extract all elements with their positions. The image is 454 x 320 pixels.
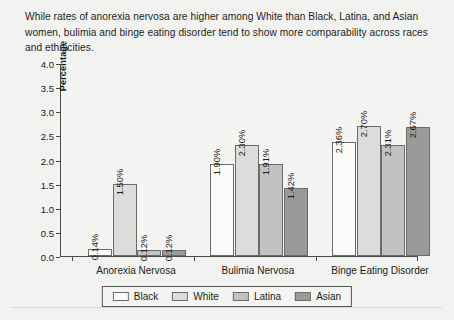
y-axis-tick-label: 4.0: [41, 59, 54, 70]
bar-value-label: 0.12%: [139, 235, 149, 261]
legend-item[interactable]: Black: [113, 291, 158, 302]
bar[interactable]: 0.12%: [162, 250, 186, 256]
bar-value-label: 1.90%: [212, 149, 222, 175]
bar[interactable]: 0.14%: [88, 249, 112, 256]
bar-value-label: 1.42%: [286, 172, 296, 198]
bar[interactable]: 2.67%: [406, 127, 430, 256]
y-axis-tick-label: 3.0: [41, 107, 54, 118]
x-axis-category-label: Binge Eating Disorder: [331, 265, 428, 276]
legend-swatch: [233, 292, 249, 301]
bar-value-label: 1.50%: [115, 168, 125, 194]
y-axis-tick-mark: [56, 161, 60, 162]
bar-group: 2.36%2.70%2.31%2.67%: [332, 63, 436, 256]
legend-label: Latina: [254, 291, 281, 302]
x-axis-tick-mark: [417, 257, 418, 261]
y-axis-tick-mark: [56, 185, 60, 186]
bar-value-label: 2.67%: [408, 112, 418, 138]
y-axis-tick-label: 2.0: [41, 155, 54, 166]
x-axis-tick-mark: [194, 257, 195, 261]
bar[interactable]: 2.36%: [332, 142, 356, 256]
y-axis-tick-mark: [56, 209, 60, 210]
y-axis-tick-mark: [56, 112, 60, 113]
bar[interactable]: 1.91%: [259, 164, 283, 256]
y-axis-tick-mark: [56, 233, 60, 234]
x-axis-tick-mark: [316, 257, 317, 261]
bar-value-label: 2.36%: [334, 127, 344, 153]
legend-label: Black: [134, 291, 158, 302]
figure: While rates of anorexia nervosa are high…: [0, 0, 454, 320]
x-axis-category-label: Bulimia Nervosa: [222, 265, 295, 276]
y-axis-tick-mark: [56, 136, 60, 137]
y-axis-tick-label: 0.5: [41, 227, 54, 238]
bar[interactable]: 2.31%: [381, 145, 405, 256]
bar-value-label: 0.12%: [164, 235, 174, 261]
legend-item[interactable]: Latina: [233, 291, 281, 302]
bar-value-label: 2.31%: [383, 129, 393, 155]
x-axis-line: [60, 256, 418, 257]
legend-label: White: [193, 291, 219, 302]
x-axis-category-label: Anorexia Nervosa: [96, 265, 175, 276]
legend-item[interactable]: White: [172, 291, 219, 302]
bar[interactable]: 2.30%: [235, 145, 259, 256]
legend-label: Asian: [316, 291, 341, 302]
y-axis-line: [60, 64, 61, 257]
bar[interactable]: 1.90%: [210, 164, 234, 256]
chart-plot-area: Percentage 0.00.51.01.52.02.53.03.54.0 0…: [60, 64, 418, 257]
bar[interactable]: 0.12%: [137, 250, 161, 256]
bar-group: 0.14%1.50%0.12%0.12%: [88, 63, 192, 256]
legend-swatch: [172, 292, 188, 301]
y-axis-tick-label: 1.0: [41, 203, 54, 214]
bar-value-label: 2.70%: [359, 111, 369, 137]
chart-legend: BlackWhiteLatinaAsian: [102, 286, 352, 307]
bar[interactable]: 2.70%: [357, 126, 381, 256]
y-axis-tick-mark: [56, 257, 60, 258]
bar-value-label: 2.30%: [237, 130, 247, 156]
bar[interactable]: 1.42%: [284, 188, 308, 257]
bar-value-label: 0.14%: [90, 234, 100, 260]
y-axis-tick-label: 1.5: [41, 179, 54, 190]
figure-caption: While rates of anorexia nervosa are high…: [25, 9, 429, 56]
bar-value-label: 1.91%: [261, 149, 271, 175]
y-axis-tick-label: 0.0: [41, 252, 54, 263]
page-divider: [12, 307, 442, 308]
bar[interactable]: 1.50%: [113, 184, 137, 256]
y-axis-tick-mark: [56, 64, 60, 65]
legend-swatch: [113, 292, 129, 301]
legend-item[interactable]: Asian: [295, 291, 341, 302]
y-axis-tick-label: 2.5: [41, 131, 54, 142]
x-axis-tick-mark: [72, 257, 73, 261]
y-axis-tick-mark: [56, 88, 60, 89]
bar-group: 1.90%2.30%1.91%1.42%: [210, 63, 314, 256]
legend-swatch: [295, 292, 311, 301]
y-axis-tick-label: 3.5: [41, 83, 54, 94]
